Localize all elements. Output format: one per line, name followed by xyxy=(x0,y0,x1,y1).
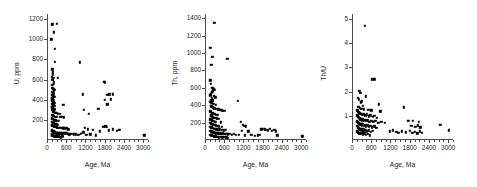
x-tick-minor xyxy=(81,140,82,142)
data-point xyxy=(104,98,106,100)
x-tick-label: 1800 xyxy=(98,145,112,151)
x-tick-minor xyxy=(439,140,440,142)
y-tick xyxy=(349,19,352,20)
data-point xyxy=(57,120,59,122)
data-point xyxy=(55,23,57,25)
y-tick-label: 1400 xyxy=(187,15,201,21)
data-point xyxy=(91,129,93,131)
y-tick xyxy=(44,59,47,60)
x-tick-minor xyxy=(76,140,77,142)
data-point xyxy=(237,100,239,102)
x-tick-minor xyxy=(234,140,235,142)
data-point xyxy=(359,91,361,93)
data-point xyxy=(57,76,59,78)
y-tick xyxy=(202,123,205,124)
x-tick-minor xyxy=(258,140,259,142)
figure-scatter-panels: 2004006008001000120006001200180024003000… xyxy=(0,0,477,187)
data-point xyxy=(209,94,211,96)
x-tick-minor xyxy=(292,140,293,142)
plot-area-u: 2004006008001000120006001200180024003000 xyxy=(47,14,148,140)
y-tick xyxy=(44,39,47,40)
data-point xyxy=(143,134,145,136)
y-tick xyxy=(202,88,205,89)
x-tick-minor xyxy=(434,140,435,142)
x-tick-minor xyxy=(272,140,273,142)
data-point xyxy=(447,129,449,131)
data-point xyxy=(210,82,212,84)
y-tick xyxy=(202,53,205,54)
data-point xyxy=(244,134,246,136)
data-point xyxy=(241,129,243,131)
y-tick-label: 1 xyxy=(344,113,348,119)
data-point xyxy=(439,124,441,126)
data-point xyxy=(250,134,252,136)
panel-th-vs-age: 2004006008001000120014000600120018002400… xyxy=(159,0,318,187)
data-point xyxy=(379,110,381,112)
data-point xyxy=(81,93,83,95)
x-tick-label: 3000 xyxy=(441,145,455,151)
data-point xyxy=(61,135,63,137)
x-tick-minor xyxy=(148,140,149,142)
data-point xyxy=(97,108,99,110)
data-point xyxy=(95,134,97,136)
x-tick-label: 1200 xyxy=(78,145,92,151)
y-tick xyxy=(44,80,47,81)
x-tick-label: 1800 xyxy=(256,145,270,151)
y-tick xyxy=(202,70,205,71)
x-tick-minor xyxy=(90,140,91,142)
xaxis-title-u: Age, Ma xyxy=(47,162,148,169)
data-point xyxy=(373,78,375,80)
y-tick xyxy=(44,100,47,101)
data-point xyxy=(118,129,120,131)
y-tick xyxy=(202,36,205,37)
data-point xyxy=(407,119,409,121)
data-point xyxy=(375,127,377,129)
x-tick-minor xyxy=(239,140,240,142)
x-tick-minor xyxy=(277,140,278,142)
y-tick-label: 200 xyxy=(190,119,201,125)
data-point xyxy=(112,93,114,95)
data-point xyxy=(240,120,242,122)
data-point xyxy=(376,117,378,119)
y-tick-label: 3 xyxy=(344,64,348,70)
y-tick-label: 1200 xyxy=(29,16,43,22)
yaxis-title-u: U, ppm xyxy=(14,53,21,93)
data-point xyxy=(216,114,218,116)
data-point xyxy=(106,103,108,105)
plot-area-th: 2004006008001000120014000600120018002400… xyxy=(205,14,306,140)
data-point xyxy=(410,125,412,127)
data-point xyxy=(301,135,303,137)
y-tick-label: 800 xyxy=(32,56,43,62)
data-point xyxy=(377,121,379,123)
x-tick-minor xyxy=(453,140,454,142)
data-point xyxy=(258,133,260,135)
data-point xyxy=(211,55,213,57)
x-tick-minor xyxy=(443,140,444,142)
y-tick xyxy=(349,67,352,68)
data-point xyxy=(210,63,212,65)
y-tick xyxy=(202,105,205,106)
data-point xyxy=(213,21,215,23)
data-point xyxy=(50,38,52,40)
data-point xyxy=(274,130,276,132)
x-tick-label: 600 xyxy=(366,145,377,151)
x-tick-minor xyxy=(134,140,135,142)
x-tick-label: 0 xyxy=(45,145,49,151)
x-tick-minor xyxy=(138,140,139,142)
data-point xyxy=(369,134,371,136)
data-point xyxy=(237,133,239,135)
x-tick-label: 0 xyxy=(203,145,207,151)
x-tick-label: 2400 xyxy=(422,145,436,151)
y-tick xyxy=(349,92,352,93)
data-point xyxy=(364,24,366,26)
data-point xyxy=(245,125,247,127)
x-tick-minor xyxy=(114,140,115,142)
x-tick-label: 2400 xyxy=(275,145,289,151)
x-tick-minor xyxy=(219,140,220,142)
data-point xyxy=(55,116,57,118)
data-point xyxy=(392,129,394,131)
x-tick-minor xyxy=(210,140,211,142)
x-tick-label: 2400 xyxy=(117,145,131,151)
data-point xyxy=(87,128,89,130)
yaxis-title-th: Th, ppm xyxy=(172,53,179,93)
